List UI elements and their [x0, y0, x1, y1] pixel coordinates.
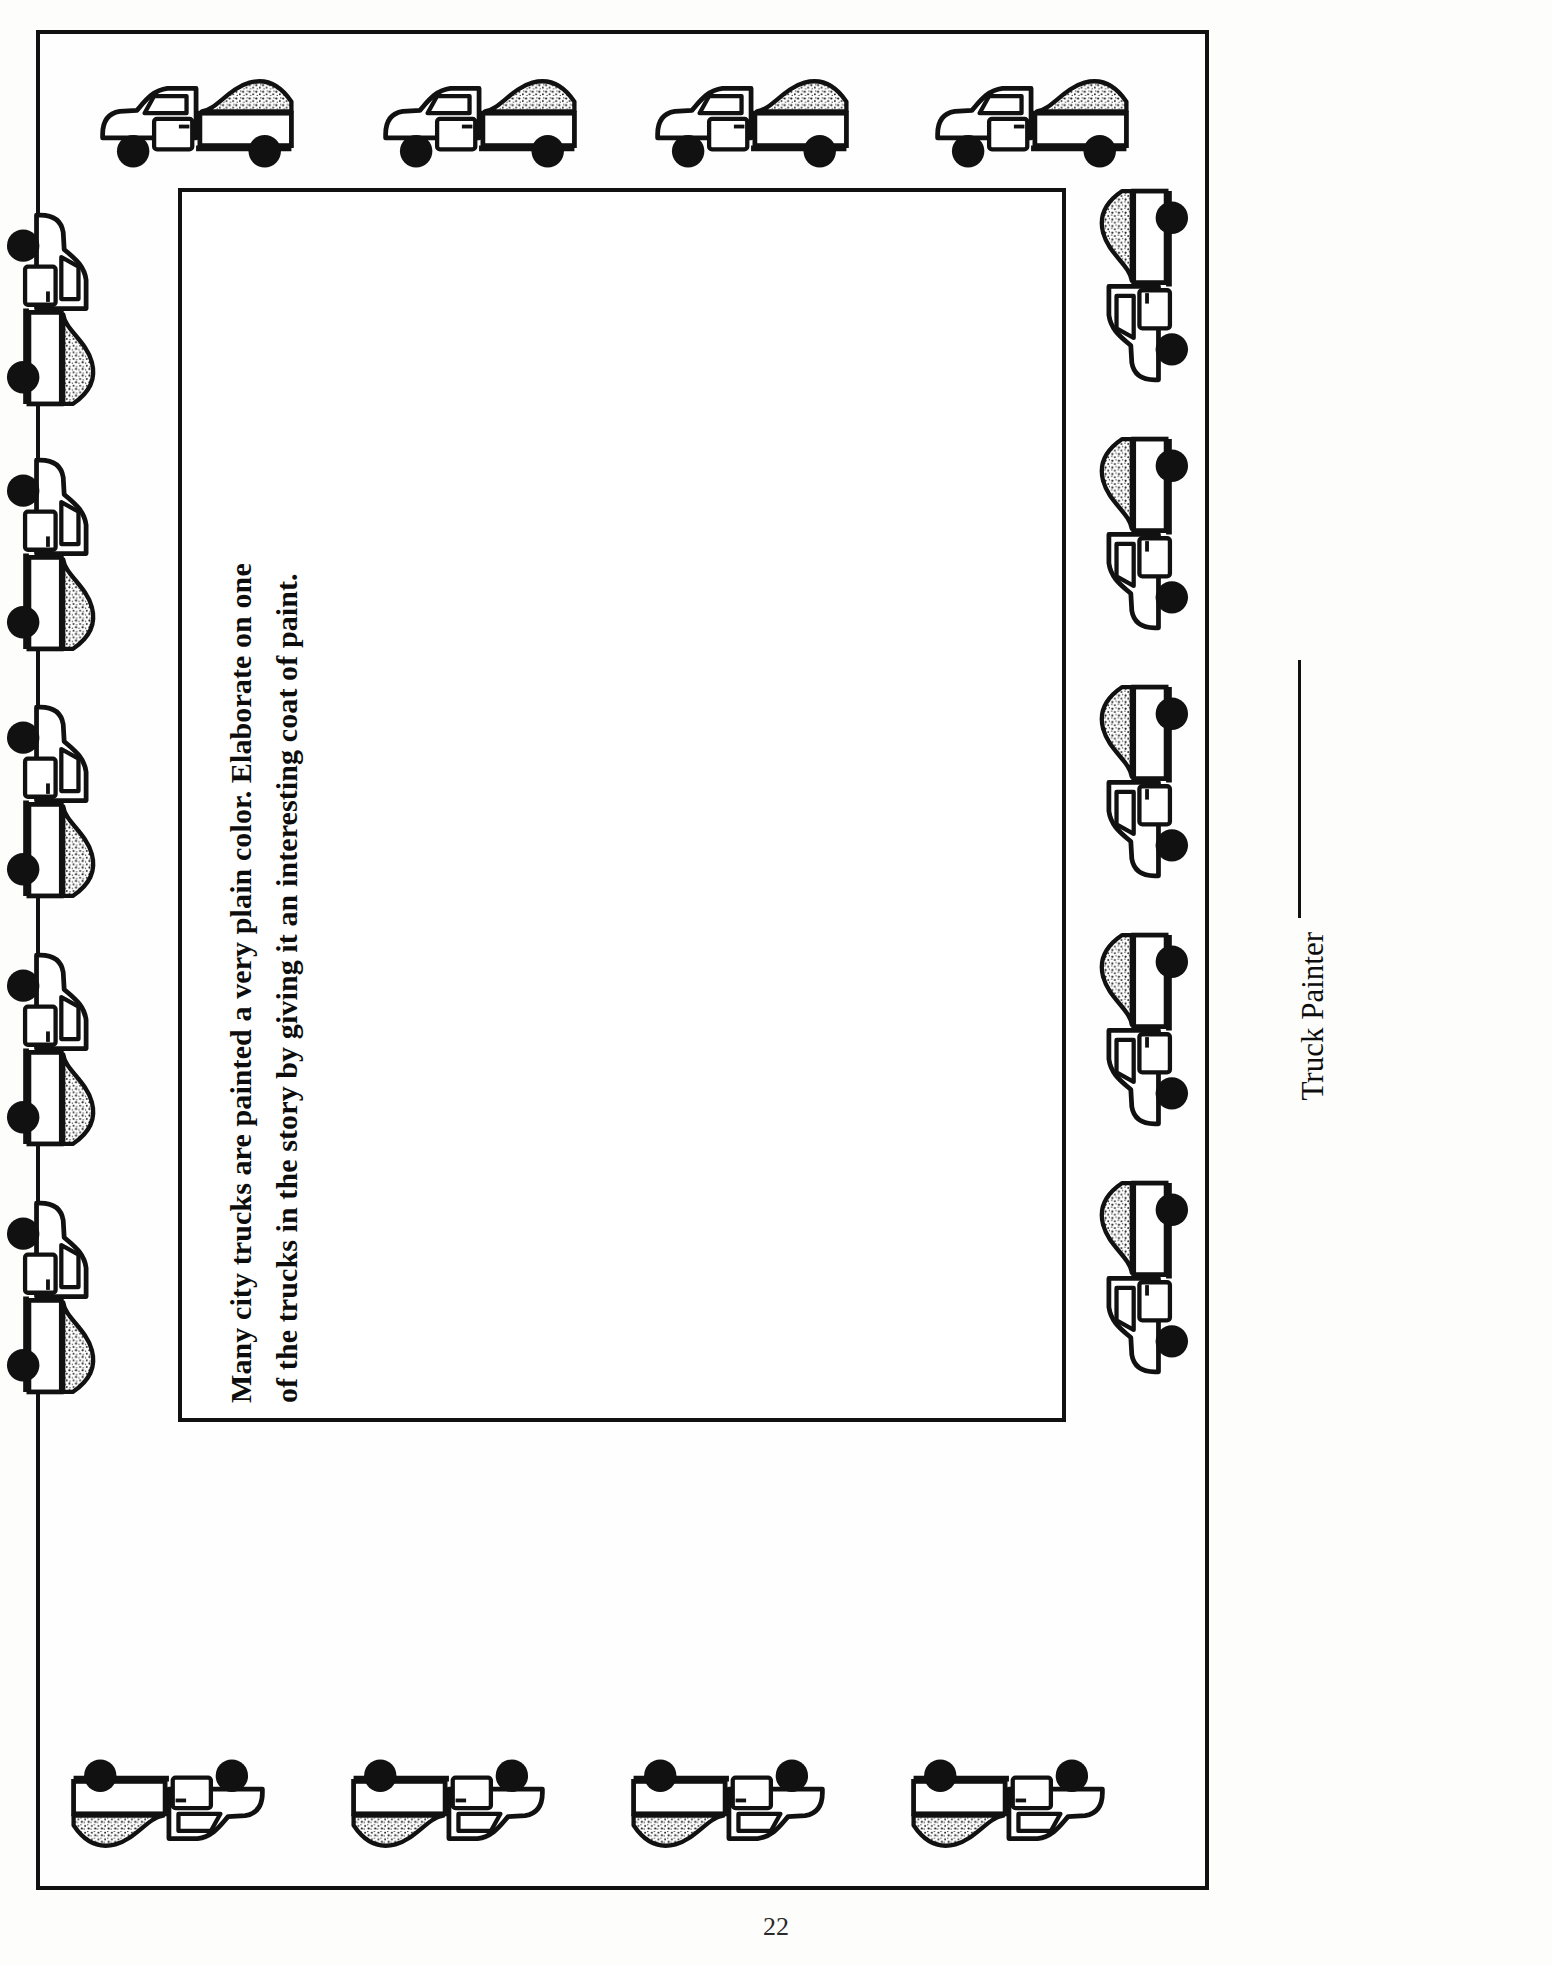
dump-truck-icon	[3, 208, 113, 413]
dump-truck-icon	[650, 62, 855, 172]
dump-truck-icon	[1083, 183, 1193, 388]
dump-truck-icon	[1083, 431, 1193, 636]
student-writing-area[interactable]	[178, 188, 1066, 1422]
signature-rule[interactable]	[1298, 660, 1301, 918]
dump-truck-icon	[625, 1755, 830, 1865]
dump-truck-icon	[3, 1196, 113, 1401]
dump-truck-icon	[95, 62, 300, 172]
signature-block: Truck Painter	[1040, 660, 1080, 1300]
dump-truck-icon	[65, 1755, 270, 1865]
dump-truck-icon	[905, 1755, 1110, 1865]
page-number: 22	[0, 1912, 1552, 1942]
dump-truck-icon	[1083, 679, 1193, 884]
dump-truck-icon	[345, 1755, 550, 1865]
dump-truck-icon	[3, 948, 113, 1153]
dump-truck-icon	[930, 62, 1135, 172]
worksheet-page: Many city trucks are painted a very plai…	[0, 0, 1552, 1965]
signature-label: Truck Painter	[1295, 932, 1331, 1101]
dump-truck-icon	[3, 700, 113, 905]
dump-truck-icon	[378, 62, 583, 172]
dump-truck-icon	[1083, 927, 1193, 1132]
dump-truck-icon	[3, 453, 113, 658]
dump-truck-icon	[1083, 1175, 1193, 1380]
